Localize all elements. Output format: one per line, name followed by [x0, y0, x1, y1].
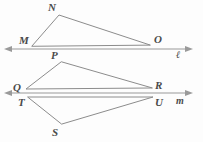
line-l-label: ℓ	[176, 49, 180, 60]
triangle-MNO-outline	[32, 15, 150, 46]
line-m-label: m	[176, 95, 184, 106]
line-l-right-arrow-icon	[185, 46, 193, 52]
triangle-TUS: T U S	[18, 96, 164, 138]
triangle-TUS-outline	[28, 97, 153, 124]
vertex-label-R: R	[154, 79, 162, 91]
vertex-label-M: M	[18, 34, 30, 46]
line-m-group: m	[4, 90, 193, 106]
vertex-label-S: S	[52, 126, 58, 138]
vertex-label-P: P	[51, 49, 58, 61]
vertex-label-N: N	[47, 1, 57, 13]
line-l-left-arrow-icon	[4, 46, 12, 52]
geometry-diagram: ℓ M N O m P Q R T U S	[0, 0, 203, 142]
geometry-canvas: ℓ M N O m P Q R T U S	[0, 0, 203, 142]
vertex-label-T: T	[18, 96, 26, 108]
triangle-MNO: M N O	[18, 1, 162, 46]
vertex-label-O: O	[154, 33, 162, 45]
triangle-PQR: P Q R	[13, 49, 162, 93]
vertex-label-Q: Q	[13, 81, 21, 93]
line-m-left-arrow-icon	[4, 90, 12, 96]
line-m-right-arrow-icon	[185, 90, 193, 96]
line-l-group: ℓ	[4, 46, 193, 60]
triangle-PQR-outline	[26, 62, 152, 89]
vertex-label-U: U	[155, 96, 164, 108]
